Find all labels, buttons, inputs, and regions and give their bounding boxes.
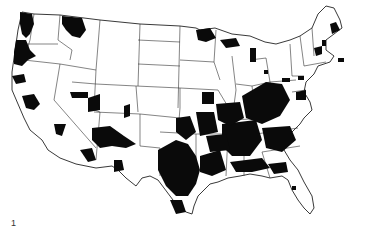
us-map: [0, 0, 368, 235]
shaded-region-pennsylvania-a: [282, 78, 290, 82]
shaded-region-new-england-coast: [338, 58, 344, 62]
shaded-region-florida-dot: [292, 186, 296, 190]
shaded-region-pennsylvania-b: [298, 76, 304, 80]
shaded-region-colorado-dot: [124, 104, 130, 118]
shaded-region-utah-north: [70, 92, 88, 98]
shaded-region-georgia-carolina: [262, 126, 296, 152]
shaded-region-mid-south-block: [206, 134, 230, 152]
figure-label: 1: [11, 218, 16, 228]
shaded-region-michigan-lower: [250, 48, 256, 62]
shaded-region-michigan-dot: [264, 70, 268, 74]
shaded-region-vermont: [322, 40, 326, 46]
shaded-region-missouri-east: [202, 92, 214, 104]
